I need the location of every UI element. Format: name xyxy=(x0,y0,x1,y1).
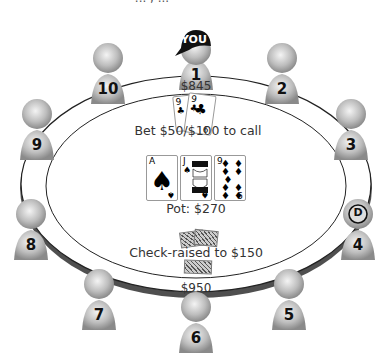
hero-action-text: Bet $50/$100 to call xyxy=(135,123,262,138)
seat-number: 9 xyxy=(14,136,60,154)
you-cap-label: YOU xyxy=(181,33,207,46)
community-card-3: 9 ♦♦ ♦♦ ♦ ♦♦ ♦♦ 9 xyxy=(214,155,246,201)
pot-label: Pot: $270 xyxy=(166,201,226,216)
seat-8: 8 xyxy=(8,194,54,262)
poker-table-diagram: ... , ... YOU 1 10 2 9 3 8 D 4 xyxy=(0,0,391,356)
seat-number: 4 xyxy=(335,236,381,254)
seat-10: 10 xyxy=(85,38,131,106)
seat-3: 3 xyxy=(328,94,374,162)
community-card-2: J ♠ ♠ xyxy=(180,155,212,201)
seat-6-villain: 6 xyxy=(173,287,219,355)
villain-chips-icon xyxy=(184,260,212,275)
seat-5: 5 xyxy=(266,264,312,332)
seat-number: 3 xyxy=(328,136,374,154)
partial-caption: ... , ... xyxy=(135,0,169,5)
seat-number: 5 xyxy=(266,306,312,324)
seat-number: 2 xyxy=(259,80,305,98)
seat-7: 7 xyxy=(76,264,122,332)
seat-number: 7 xyxy=(76,306,122,324)
seat-number: 8 xyxy=(8,236,54,254)
villain-action-text: Check-raised to $150 xyxy=(129,245,263,260)
seat-4-dealer: D 4 xyxy=(335,194,381,262)
seat-number: 6 xyxy=(173,329,219,347)
hero-stack: $845 xyxy=(181,79,212,93)
villain-stack: $950 xyxy=(181,281,212,295)
seat-9: 9 xyxy=(14,94,60,162)
seat-2: 2 xyxy=(259,38,305,106)
seat-number: 10 xyxy=(85,80,131,98)
dealer-button-label: D xyxy=(335,206,381,219)
community-card-1: A ♠ ♠ xyxy=(146,155,178,201)
